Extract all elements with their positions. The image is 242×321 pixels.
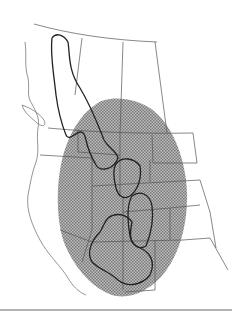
map-svg: [0, 0, 242, 321]
vancouver-island: [22, 105, 45, 126]
range-map-figure: [0, 0, 242, 321]
